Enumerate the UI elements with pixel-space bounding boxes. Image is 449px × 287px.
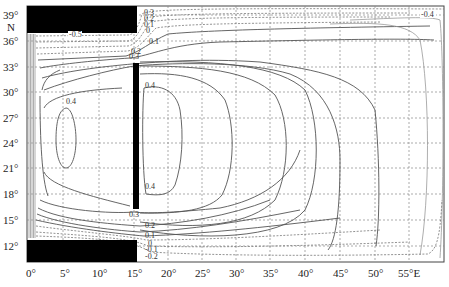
svg-text:20°: 20° [161,267,176,279]
svg-text:0.2: 0.2 [145,221,155,230]
svg-text:35°: 35° [263,267,278,279]
svg-text:50°: 50° [368,267,383,279]
svg-text:0°: 0° [26,267,36,279]
y-axis-labels: 39° N 36° 33° 30° 27° 24° 21° 18° 15° 12… [3,9,18,252]
north-land-block [27,6,137,33]
svg-text:10°: 10° [92,267,107,279]
svg-text:0.4: 0.4 [145,81,155,90]
svg-text:30°: 30° [3,86,18,98]
svg-text:55°E: 55°E [398,267,420,279]
svg-text:-0.4: -0.4 [421,10,434,19]
svg-text:-0.5: -0.5 [69,30,82,39]
x-axis-labels: 0° 5° 10° 15° 20° 25° 30° 35° 40° 45° 50… [26,267,420,279]
svg-text:24°: 24° [3,137,18,149]
svg-text:0.4: 0.4 [145,182,155,191]
svg-text:0.1: 0.1 [149,37,159,46]
svg-text:0.3: 0.3 [129,52,139,61]
svg-text:15°: 15° [127,267,142,279]
plot-area [27,6,444,262]
svg-text:27°: 27° [3,112,18,124]
barrier-land [133,63,139,209]
svg-text:33°: 33° [3,61,18,73]
svg-text:5°: 5° [60,267,70,279]
svg-text:39°: 39° [3,9,18,21]
svg-text:30°: 30° [229,267,244,279]
svg-text:N: N [7,21,15,33]
svg-text:21°: 21° [3,162,18,174]
svg-text:40°: 40° [298,267,313,279]
svg-text:12°: 12° [3,240,18,252]
svg-text:25°: 25° [195,267,210,279]
svg-text:36°: 36° [3,35,18,47]
svg-text:0.3: 0.3 [129,210,139,219]
svg-text:0: 0 [146,26,150,35]
svg-text:0.4: 0.4 [66,97,76,106]
contour-chart: -0.5 0.3 0.2 0.1 0 0.1 0.2 0.3 0.4 0.4 0… [0,0,449,287]
svg-text:18°: 18° [3,188,18,200]
south-land-block [27,240,137,262]
svg-text:15°: 15° [3,214,18,226]
svg-text:45°: 45° [333,267,348,279]
svg-text:-0.2: -0.2 [145,252,158,261]
